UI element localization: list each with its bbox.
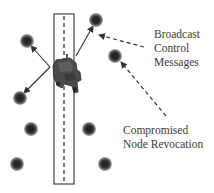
diagram-canvas: Broadcast Control Messages Compromised N… [0,0,214,193]
label-line: Messages [154,55,200,69]
node-icon [82,122,96,136]
broadcast-control-messages-label: Broadcast Control Messages [154,27,200,69]
label-line: Node Revocation [123,137,203,151]
node-icon [24,122,38,136]
node-icon [98,157,112,171]
label-line: Broadcast [154,27,200,41]
node-icon [108,49,122,63]
node-icon [89,13,103,27]
compromised-node-revocation-label: Compromised Node Revocation [123,123,203,151]
label-line: Compromised [123,123,203,137]
label-line: Control [154,41,200,55]
node-icon [20,34,34,48]
node-icon [13,91,27,105]
road [54,14,74,184]
node-icon [10,157,24,171]
